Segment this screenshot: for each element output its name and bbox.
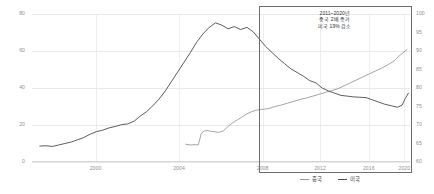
legend-item-china: 중국 [300, 176, 322, 183]
annotation-label: 2011~2020년 중국 2배 증가 미국 19% 감소 [259, 10, 410, 29]
y-axis-right-tick: 80 [416, 85, 422, 90]
y-axis-left: 806040200 [0, 14, 29, 162]
chart-container: 806040200 1009590858075706560 2011~2020년… [0, 0, 434, 194]
y-axis-right-tick: 90 [416, 48, 422, 53]
chart-legend: 중국 미국 [300, 172, 430, 186]
legend-label-china: 중국 [312, 176, 322, 183]
y-axis-right-tick: 85 [416, 67, 422, 72]
y-axis-right-tick: 75 [416, 104, 422, 109]
y-axis-right-tick: 60 [416, 159, 422, 164]
x-axis-tick: 2012 [314, 165, 326, 171]
y-axis-left-tick: 40 [19, 85, 25, 90]
x-axis-tick: 2008 [257, 165, 269, 171]
x-axis-tick: 2004 [173, 165, 185, 171]
x-axis-tick: 2000 [90, 165, 102, 171]
legend-swatch-usa [338, 179, 347, 180]
y-axis-left-tick: 60 [19, 48, 25, 53]
annotation-line-3: 미국 19% 감소 [259, 23, 410, 29]
series-lines [32, 14, 410, 162]
line-china [186, 50, 407, 145]
x-axis-tick: 2020 [398, 165, 410, 171]
line-usa [40, 23, 409, 147]
y-axis-left-tick: 20 [19, 122, 25, 127]
plot-area [32, 14, 410, 162]
legend-item-usa: 미국 [338, 176, 360, 183]
y-axis-right-tick: 95 [416, 30, 422, 35]
y-axis-right-tick: 100 [416, 11, 425, 16]
axis-baseline [32, 161, 410, 162]
y-axis-right-tick: 70 [416, 122, 422, 127]
y-axis-left-tick: 0 [22, 159, 25, 164]
y-axis-left-tick: 80 [19, 11, 25, 16]
x-axis-tick: 2016 [363, 165, 375, 171]
y-axis-right-tick: 65 [416, 141, 422, 146]
legend-label-usa: 미국 [350, 176, 360, 183]
legend-swatch-china [300, 179, 309, 180]
y-axis-right: 1009590858075706560 [412, 14, 434, 162]
